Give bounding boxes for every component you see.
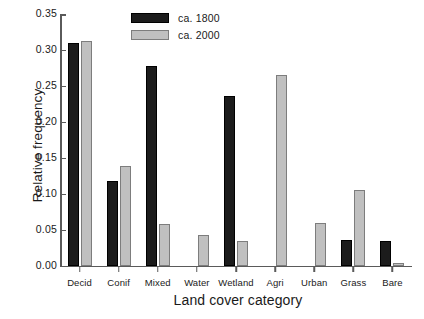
bar [68,43,79,266]
bar [146,66,157,266]
x-axis-tick-label: Decid [67,277,92,288]
bar [276,75,287,265]
y-axis-tick-mark [61,266,66,268]
x-axis-tick-mark [79,267,81,272]
x-axis-tick-label: Conif [107,277,130,288]
y-axis-tick-label: 0.05 [36,223,57,235]
y-axis-tick-mark [61,14,66,16]
x-axis-tick-mark [157,267,159,272]
bar [224,96,235,266]
x-axis-tick-mark [392,267,394,272]
y-axis-tick-label: 0.35 [36,7,57,19]
bar [341,240,352,265]
bar [107,181,118,265]
x-axis-tick-mark [196,267,198,272]
legend-item: ca. 2000 [131,28,220,42]
y-axis-tick-label: 0.15 [36,151,57,163]
x-axis-title: Land cover category [52,292,424,308]
bar [380,241,391,265]
y-axis-tick-mark [61,50,66,52]
y-axis-tick-label: 0.10 [36,187,57,199]
x-axis-tick-label: Agri [266,277,283,288]
bar-chart-figure: Relative frequency Land cover category 0… [0,0,424,319]
x-axis-tick-mark [235,267,237,272]
y-axis-tick-mark [61,122,66,124]
legend-label: ca. 1800 [178,12,220,24]
legend-item: ca. 1800 [131,11,220,25]
x-axis-tick-label: Bare [382,277,402,288]
legend-label: ca. 2000 [178,29,220,41]
y-axis-tick-mark [61,194,66,196]
x-axis-tick-label: Urban [301,277,327,288]
bar [354,190,365,265]
y-axis-tick-label: 0.00 [36,259,57,271]
x-axis-tick-label: Wetland [218,277,253,288]
x-axis-tick-label: Water [184,277,209,288]
x-axis-tick-label: Grass [340,277,366,288]
bar [198,235,209,266]
bar [120,166,131,265]
x-axis-tick-mark [274,267,276,272]
legend-swatch [131,13,169,23]
legend-swatch [131,30,169,40]
bar [237,241,248,265]
chart-legend: ca. 1800ca. 2000 [131,11,220,45]
x-axis-tick-mark [353,267,355,272]
x-axis-tick-label: Mixed [145,277,171,288]
bar [393,263,404,266]
y-axis-tick-label: 0.30 [36,43,57,55]
y-axis-tick-mark [61,158,66,160]
bar [81,41,92,265]
plot-area: 0.000.050.100.150.200.250.300.35 DecidCo… [60,14,412,267]
x-axis-tick-mark [118,267,120,272]
bar [159,224,170,266]
y-axis-tick-label: 0.25 [36,79,57,91]
y-axis-tick-mark [61,230,66,232]
bar [315,223,326,265]
x-axis-tick-mark [313,267,315,272]
y-axis-tick-label: 0.20 [36,115,57,127]
y-axis-tick-mark [61,86,66,88]
